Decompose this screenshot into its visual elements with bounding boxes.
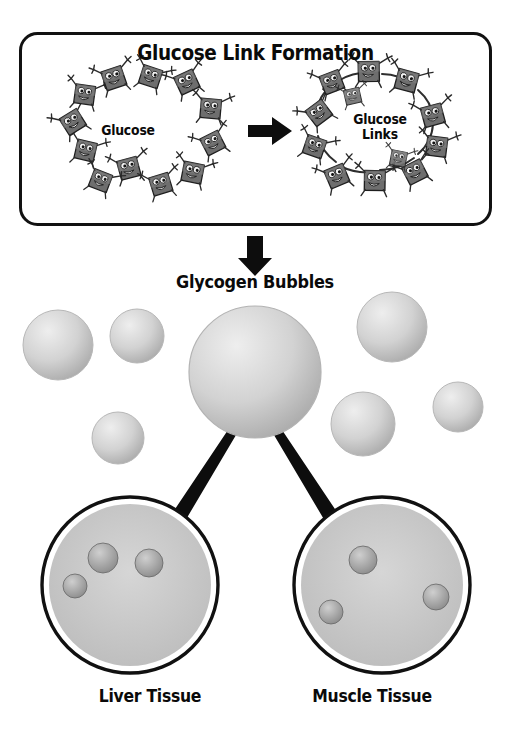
glucose-ring-label: Glucose <box>82 123 174 138</box>
glucose-links-ring-label: Glucose Links <box>334 112 426 141</box>
glycogen-bubble-3 <box>92 412 144 464</box>
liver-tissue-label: Liver Tissue <box>49 686 251 706</box>
glycogen-diagram <box>0 0 510 742</box>
glycogen-bubble-1 <box>23 310 93 380</box>
glycogen-bubbles-heading: Glycogen Bubbles <box>20 272 489 292</box>
glycogen-bubble-2 <box>110 309 164 363</box>
glycogen-bubble-5 <box>331 392 395 456</box>
muscle-tissue-circle <box>294 497 471 674</box>
glycogen-bubble-4 <box>357 292 427 362</box>
muscle-tissue-label: Muscle Tissue <box>271 686 473 706</box>
glycogen-bubble-6 <box>433 382 483 432</box>
